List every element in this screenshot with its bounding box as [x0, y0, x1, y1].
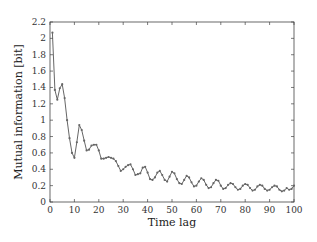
data-point [188, 176, 190, 178]
data-point [276, 185, 278, 187]
x-tick-label: 60 [191, 205, 203, 215]
data-point [171, 171, 173, 173]
data-point [149, 178, 151, 180]
data-point [195, 185, 197, 187]
x-tick-label: 100 [285, 205, 302, 215]
data-point [283, 189, 285, 191]
data-point [86, 149, 88, 151]
data-point [81, 129, 83, 131]
y-tick-label: 0.4 [32, 164, 47, 174]
data-point [181, 183, 183, 185]
data-point [178, 182, 180, 184]
data-point [156, 171, 158, 173]
data-point [76, 141, 78, 143]
data-point [164, 179, 166, 181]
data-point [273, 185, 275, 187]
data-point [269, 189, 271, 191]
data-point [239, 188, 241, 190]
data-point [222, 188, 224, 190]
data-point [64, 97, 66, 99]
data-point [286, 187, 288, 189]
y-tick-label: 2.2 [32, 17, 46, 27]
data-point [68, 137, 70, 139]
data-point [159, 170, 161, 172]
data-point [261, 185, 263, 187]
x-axis-label: Time lag [148, 216, 196, 229]
data-point [93, 144, 95, 146]
data-point [88, 149, 90, 151]
data-line [52, 33, 294, 192]
data-point [251, 189, 253, 191]
data-point [112, 158, 114, 160]
y-tick-label: 1.6 [32, 66, 47, 76]
data-point [95, 144, 97, 146]
data-point [217, 180, 219, 182]
x-tick-label: 50 [166, 205, 178, 215]
data-point [90, 144, 92, 146]
data-point [115, 160, 117, 162]
data-point [190, 181, 192, 183]
data-point [117, 165, 119, 167]
data-point [203, 179, 205, 181]
data-point [56, 99, 58, 101]
data-point [103, 158, 105, 160]
data-point [208, 187, 210, 189]
data-point [78, 124, 80, 126]
data-point [137, 173, 139, 175]
y-tick-label: 0.6 [32, 148, 47, 158]
data-point [100, 158, 102, 160]
data-point [173, 172, 175, 174]
data-point [61, 83, 63, 85]
data-point [142, 167, 144, 169]
data-point [168, 176, 170, 178]
data-point [127, 164, 129, 166]
y-tick-label: 1.8 [32, 50, 47, 60]
data-point [293, 185, 295, 187]
data-point [244, 183, 246, 185]
x-tick-label: 0 [47, 205, 53, 215]
y-tick-label: 1.2 [32, 99, 46, 109]
data-point [205, 184, 207, 186]
y-tick-label: 0.8 [32, 132, 47, 142]
data-point [242, 185, 244, 187]
y-tick-label: 0 [40, 197, 46, 207]
data-point [144, 166, 146, 168]
data-point [73, 157, 75, 159]
x-tick-label: 70 [215, 205, 227, 215]
data-point [288, 189, 290, 191]
y-tick-label: 0.2 [32, 181, 46, 191]
data-point [264, 188, 266, 190]
data-point [281, 190, 283, 192]
x-tick-label: 90 [264, 205, 276, 215]
data-point [200, 177, 202, 179]
data-point [134, 174, 136, 176]
data-point [166, 180, 168, 182]
data-point [183, 179, 185, 181]
data-point [59, 87, 61, 89]
data-point [266, 189, 268, 191]
data-point [122, 168, 124, 170]
data-point [271, 186, 273, 188]
data-point [98, 149, 100, 151]
data-point [107, 156, 109, 158]
plot-frame [50, 22, 294, 202]
data-point [83, 140, 85, 142]
data-point [129, 163, 131, 165]
data-point [71, 152, 73, 154]
y-tick-label: 2 [40, 33, 46, 43]
data-point [220, 185, 222, 187]
data-point [139, 172, 141, 174]
data-point [254, 189, 256, 191]
x-tick-label: 30 [117, 205, 129, 215]
x-tick-label: 10 [69, 205, 81, 215]
x-tick-label: 80 [239, 205, 251, 215]
mutual-information-chart: 010203040506070809010000.20.40.60.811.21… [0, 0, 317, 242]
data-point [120, 170, 122, 172]
x-tick-label: 20 [93, 205, 105, 215]
plot-area: 010203040506070809010000.20.40.60.811.21… [32, 17, 303, 215]
data-point [237, 189, 239, 191]
data-point [161, 174, 163, 176]
data-point [225, 187, 227, 189]
data-point [215, 179, 217, 181]
data-point [278, 189, 280, 191]
